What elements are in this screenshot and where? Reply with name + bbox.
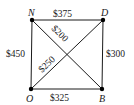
vertex-label-d: D: [100, 7, 109, 18]
edge-d-b: [102, 20, 103, 89]
edge-label-n-o: $450: [6, 49, 25, 59]
vertex-n: [30, 18, 34, 22]
edge-label-o-d: $250: [36, 54, 57, 75]
vertex-label-b: B: [99, 93, 105, 104]
edge-label-n-d: $375: [53, 9, 72, 19]
vertex-label-o: O: [26, 93, 33, 104]
graph-diagram: N D O B $375 $450 $300 $325 $200 $250: [0, 0, 134, 105]
vertex-label-n: N: [27, 7, 36, 18]
edge-n-o: [31, 20, 32, 89]
edge-label-o-b: $325: [50, 93, 69, 103]
vertex-b: [100, 87, 104, 91]
edge-label-d-b: $300: [106, 49, 125, 59]
vertex-o: [29, 87, 33, 91]
vertex-d: [101, 18, 105, 22]
